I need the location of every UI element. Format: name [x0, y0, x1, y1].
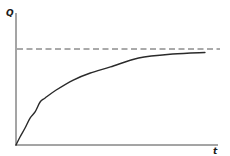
x-axis-label: t	[213, 147, 217, 156]
saturation-curve	[16, 52, 205, 145]
y-axis-label: Q	[6, 9, 14, 18]
chart-canvas	[0, 0, 230, 156]
